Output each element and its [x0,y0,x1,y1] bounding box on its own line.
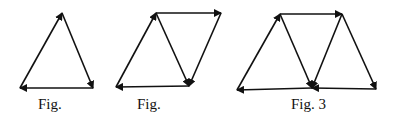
vector-arrow-AB [20,13,62,88]
vector-arrow-ED [312,88,376,89]
figure-3-three-triangles [237,14,376,90]
vector-arrow-BC [62,13,93,88]
vector-arrow-BD [156,13,189,86]
figure-2-caption: Fig. [137,96,161,113]
vector-arrow-AB [237,14,280,90]
vector-arrow-DA [116,86,189,87]
vector-arrow-CD [189,13,221,86]
vector-arrow-CD [312,14,342,88]
figure-1-caption: Fig. [38,96,62,113]
figure-2-two-triangles [116,13,221,87]
figure-1-triangle [20,13,93,88]
vector-arrow-BD [280,14,312,88]
vector-arrow-DA [237,88,312,90]
vector-arrow-CE [342,14,376,89]
figure-3-caption: Fig. 3 [291,96,326,113]
vector-arrow-AB [116,13,156,87]
